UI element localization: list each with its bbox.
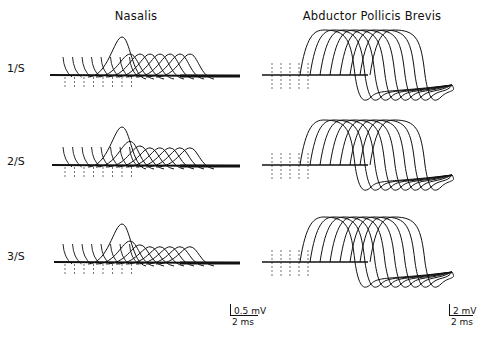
trace <box>92 57 101 77</box>
emg-figure: Nasalis Abductor Pollicis Brevis 1/S 2/S… <box>0 0 483 346</box>
scale-amplitude-apb: 2 mV <box>453 306 477 316</box>
trace <box>101 57 110 77</box>
trace <box>63 147 72 167</box>
scale-amplitude-nasalis: 0.5 mV <box>234 306 266 316</box>
trace <box>82 244 91 264</box>
scale-time-nasalis: 2 ms <box>232 317 254 327</box>
trace <box>92 244 101 264</box>
trace <box>73 244 82 264</box>
trace <box>63 244 72 264</box>
trace <box>101 147 110 167</box>
trace <box>101 244 110 264</box>
scale-bar-nasalis: 0.5 mV 2 ms <box>230 304 270 330</box>
trace <box>82 147 91 167</box>
waveform-traces <box>0 0 483 346</box>
trace <box>82 57 91 77</box>
trace <box>73 57 82 77</box>
scale-time-apb: 2 ms <box>451 317 473 327</box>
trace <box>63 57 72 77</box>
trace <box>92 147 101 167</box>
scale-bar-apb: 2 mV 2 ms <box>449 304 483 330</box>
trace <box>73 147 82 167</box>
